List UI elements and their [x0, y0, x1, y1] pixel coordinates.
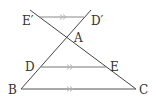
label-a: A: [73, 31, 83, 45]
triangle-diagram: E′ D′ A D E B C: [0, 0, 156, 104]
label-e: E: [110, 60, 119, 74]
label-c: C: [139, 83, 148, 97]
line-c-to-e-prime: [30, 10, 136, 89]
label-b: B: [8, 83, 17, 97]
label-e-prime: E′: [22, 14, 34, 28]
label-d-prime: D′: [91, 14, 104, 28]
label-d: D: [25, 60, 35, 74]
